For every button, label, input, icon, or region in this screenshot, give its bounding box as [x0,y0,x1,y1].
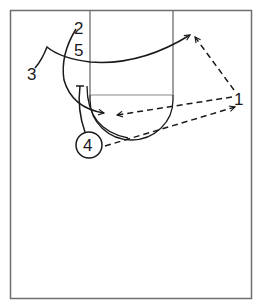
court-boundary [11,11,252,299]
free-throw-circle-arc [90,95,173,140]
player-5-label: 5 [74,41,83,60]
player-3-cut-path [35,35,190,68]
basketball-court-diagram: 1 2 3 4 5 [0,0,255,302]
player-5-roll-path [87,86,128,138]
player-2-cut-path [63,29,104,113]
player-2-label: 2 [74,19,83,38]
player-4-screen-path [79,86,85,132]
pass-1-to-top-right [195,37,234,90]
player-1-label: 1 [234,90,243,109]
player-4-label: 4 [83,136,92,155]
player-3-label: 3 [27,65,36,84]
pass-4-to-1 [105,107,235,146]
